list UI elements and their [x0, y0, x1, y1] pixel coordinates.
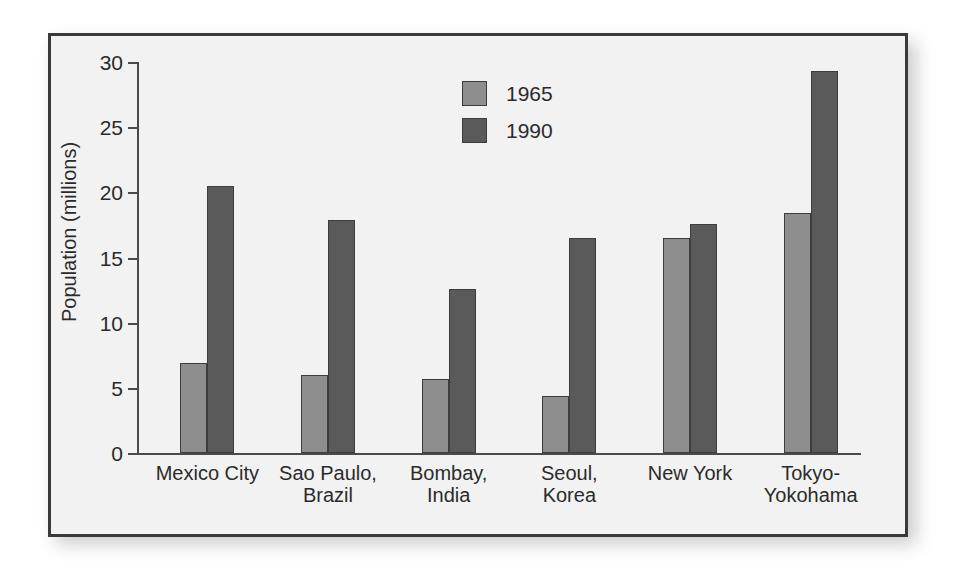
y-tick-label: 10 — [100, 312, 123, 333]
x-axis-category-label: New York — [648, 462, 733, 484]
bar — [180, 363, 207, 453]
x-axis-category-label: Mexico City — [156, 462, 259, 484]
y-tick-mark — [128, 323, 137, 325]
y-axis-spine — [137, 62, 139, 455]
y-tick-label: 30 — [100, 52, 123, 73]
plot-area: 051015202530 Mexico CitySao Paulo, Brazi… — [137, 62, 861, 455]
bar — [542, 396, 569, 453]
y-tick-mark — [128, 453, 137, 455]
y-tick-label: 20 — [100, 182, 123, 203]
bar-group — [542, 62, 596, 453]
bar-group — [180, 62, 234, 453]
bar — [811, 71, 838, 453]
bar — [328, 220, 355, 453]
y-tick-mark — [128, 258, 137, 260]
y-tick-label: 15 — [100, 247, 123, 268]
bar-group — [784, 62, 838, 453]
y-tick-mark — [128, 62, 137, 64]
bar — [207, 186, 234, 453]
bar — [422, 379, 449, 453]
bar-group — [301, 62, 355, 453]
figure-root: 1965 1990 Population (millions) 05101520… — [0, 0, 957, 571]
y-tick-label: 5 — [111, 377, 123, 398]
bar-group — [422, 62, 476, 453]
x-axis-category-label: Tokyo- Yokohama — [764, 462, 858, 507]
bar-group — [663, 62, 717, 453]
bar — [569, 238, 596, 453]
y-tick-mark — [128, 388, 137, 390]
y-tick-mark — [128, 127, 137, 129]
bar — [690, 224, 717, 453]
y-tick-mark — [128, 192, 137, 194]
x-axis-baseline — [137, 453, 861, 455]
chart-frame: 1965 1990 Population (millions) 05101520… — [48, 33, 908, 537]
y-axis-title: Population (millions) — [58, 142, 81, 322]
bar — [449, 289, 476, 453]
x-axis-category-label: Seoul, Korea — [541, 462, 598, 507]
x-axis-category-label: Bombay, India — [410, 462, 487, 507]
y-tick-label: 25 — [100, 117, 123, 138]
bar — [663, 238, 690, 453]
y-tick-label: 0 — [111, 443, 123, 464]
bar — [301, 375, 328, 453]
bar — [784, 213, 811, 453]
x-axis-category-label: Sao Paulo, Brazil — [279, 462, 377, 507]
